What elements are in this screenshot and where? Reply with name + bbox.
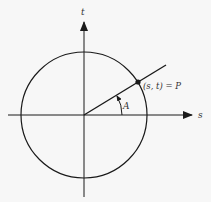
s-axis-label: s: [198, 110, 203, 120]
point-p: [135, 79, 140, 84]
angle-label: A: [122, 101, 130, 111]
unit-circle-diagram: t s (s, t) = P A: [0, 0, 211, 202]
t-axis-label: t: [81, 7, 85, 17]
point-label: (s, t) = P: [143, 81, 181, 91]
angle-arc: [117, 96, 122, 115]
diagram-canvas: t s (s, t) = P A: [0, 0, 211, 202]
